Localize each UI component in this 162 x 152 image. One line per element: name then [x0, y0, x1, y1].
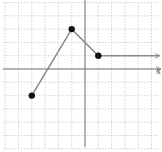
- x-axis-label: x: [156, 66, 161, 76]
- line-segments: [32, 29, 99, 96]
- function-graph: [29, 26, 160, 99]
- closed-point: [29, 92, 35, 98]
- graph-plot: [0, 0, 162, 152]
- grid-lines: [3, 3, 159, 150]
- axes: [3, 0, 161, 147]
- closed-point: [69, 26, 75, 32]
- closed-point: [95, 53, 101, 59]
